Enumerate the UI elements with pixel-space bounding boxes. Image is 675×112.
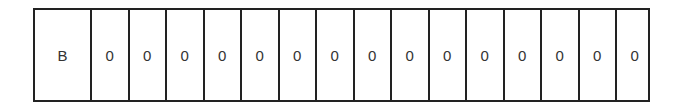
tape-cell: 0 <box>503 10 541 100</box>
tape-cell: 0 <box>390 10 428 100</box>
tape-cell: 0 <box>315 10 353 100</box>
tape-cell: 0 <box>165 10 203 100</box>
tape-cell: 0 <box>540 10 578 100</box>
tape-cell: 0 <box>428 10 466 100</box>
tape-cell: 0 <box>203 10 241 100</box>
tape-cell: 0 <box>240 10 278 100</box>
tape-cell: 0 <box>615 10 653 100</box>
tape-cell: B <box>35 10 90 100</box>
tape-cell: 0 <box>90 10 128 100</box>
tape-cell: 0 <box>578 10 616 100</box>
tape-cell: 0 <box>128 10 166 100</box>
tape-cell: 0 <box>353 10 391 100</box>
tape-cell: 0 <box>278 10 316 100</box>
tape: B 0 0 0 0 0 0 0 0 0 0 0 0 0 0 0 <box>33 8 650 102</box>
tape-cell: 0 <box>465 10 503 100</box>
